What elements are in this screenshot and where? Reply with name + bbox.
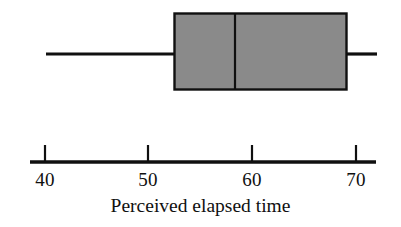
axis-tick-label-60: 60 [222,170,282,189]
boxplot-figure: 40 50 60 70 Perceived elapsed time [0,0,401,227]
axis-tick-label-40: 40 [15,170,75,189]
axis-title: Perceived elapsed time [0,196,401,216]
box-iqr [175,14,347,90]
axis-tick-label-50: 50 [118,170,178,189]
boxplot-canvas [0,0,401,227]
axis-tick-label-70: 70 [326,170,386,189]
